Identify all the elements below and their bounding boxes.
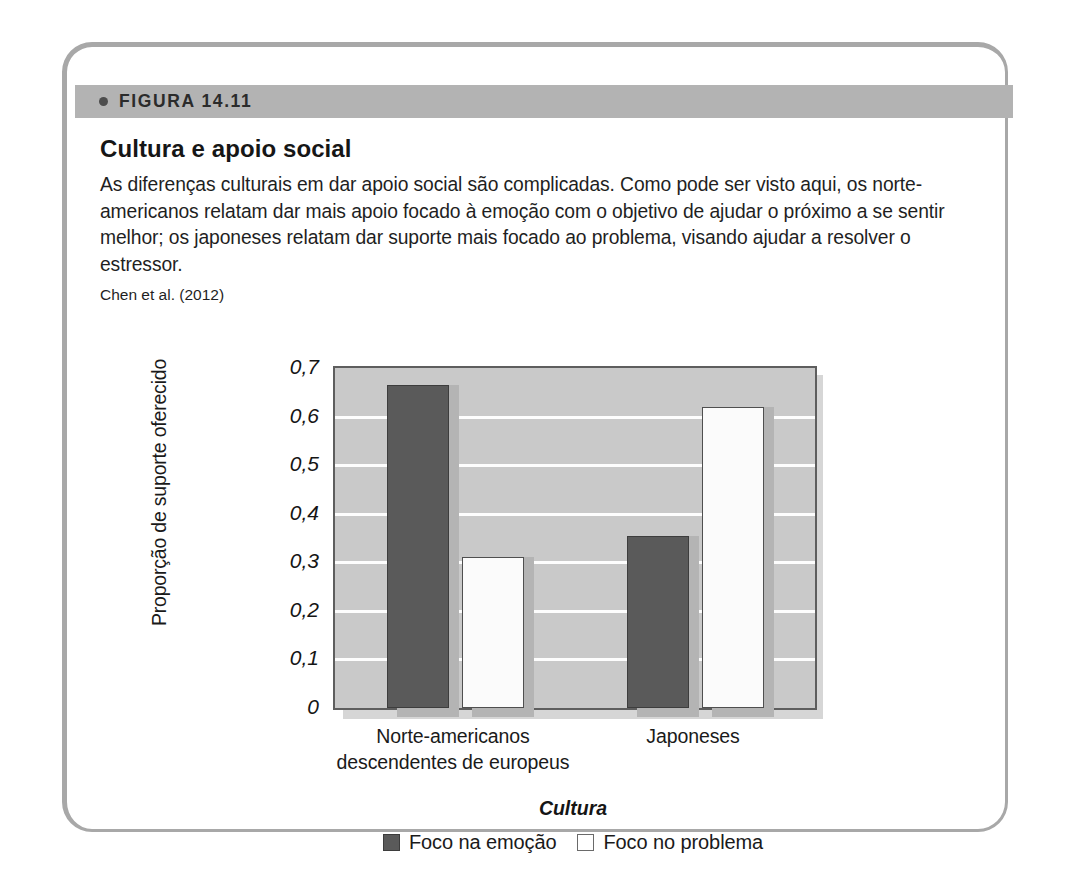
bar-chart: Proporção de suporte oferecido 00,10,20,… bbox=[67, 285, 1005, 833]
bullet-icon bbox=[99, 97, 108, 106]
legend-swatch-icon bbox=[577, 834, 594, 851]
bar bbox=[462, 557, 524, 708]
y-axis-tick-label: 0,7 bbox=[290, 356, 319, 377]
y-axis-tick-label: 0,1 bbox=[290, 647, 319, 668]
figure-number-label: FIGURA 14.11 bbox=[119, 91, 252, 112]
y-axis-tick-label: 0,5 bbox=[290, 453, 319, 474]
y-axis-tick-labels: 00,10,20,30,40,50,60,7 bbox=[263, 366, 319, 706]
x-axis-category-label-line: descendentes de europeus bbox=[283, 749, 623, 775]
x-axis-category-label-line: Japoneses bbox=[523, 723, 863, 749]
bar bbox=[627, 536, 689, 708]
legend-entry: Foco na emoção bbox=[383, 831, 557, 854]
figure-header-band: FIGURA 14.11 bbox=[75, 85, 1013, 118]
bar bbox=[702, 407, 764, 708]
x-axis-category-label: Japoneses bbox=[523, 723, 863, 749]
figure-title: Cultura e apoio social bbox=[100, 135, 972, 163]
figure-description: As diferenças culturais em dar apoio soc… bbox=[100, 172, 972, 278]
y-axis-tick-label: 0 bbox=[307, 696, 319, 717]
y-axis-tick-label: 0,6 bbox=[290, 404, 319, 425]
figure-frame: FIGURA 14.11 Cultura e apoio social As d… bbox=[62, 42, 1008, 832]
chart-legend: Foco na emoçãoFoco no problema bbox=[333, 831, 813, 854]
bar bbox=[387, 385, 449, 708]
legend-swatch-icon bbox=[383, 834, 400, 851]
y-axis-tick-label: 0,4 bbox=[290, 501, 319, 522]
legend-label: Foco no problema bbox=[603, 831, 763, 854]
y-axis-tick-label: 0,3 bbox=[290, 550, 319, 571]
y-axis-tick-label: 0,2 bbox=[290, 598, 319, 619]
caption-block: Cultura e apoio social As diferenças cul… bbox=[100, 135, 972, 305]
legend-label: Foco na emoção bbox=[409, 831, 557, 854]
legend-entry: Foco no problema bbox=[577, 831, 763, 854]
x-axis-title: Cultura bbox=[333, 797, 813, 820]
y-axis-title: Proporção de suporte oferecido bbox=[148, 313, 171, 673]
plot-area bbox=[333, 366, 817, 710]
